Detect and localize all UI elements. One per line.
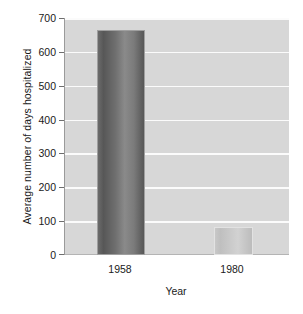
y-axis-tick-label: 600 bbox=[22, 47, 56, 58]
x-axis-tick-labels: 19581980 bbox=[64, 261, 288, 277]
bar-series bbox=[65, 18, 289, 255]
y-axis-tick-label: 200 bbox=[22, 182, 56, 193]
y-axis-tick-label: 0 bbox=[22, 250, 56, 261]
y-axis-tick-labels: 7006005004003002001000 bbox=[22, 18, 56, 255]
bar-1958 bbox=[97, 30, 145, 255]
y-axis-tick-label: 400 bbox=[22, 114, 56, 125]
y-axis-tick-label: 300 bbox=[22, 148, 56, 159]
x-axis-tick-label-1980: 1980 bbox=[220, 261, 243, 277]
x-axis-tick-label-1958: 1958 bbox=[108, 261, 131, 277]
y-axis-tick-label: 100 bbox=[22, 216, 56, 227]
y-axis-tick-label: 500 bbox=[22, 80, 56, 91]
y-axis-tick-label: 700 bbox=[22, 13, 56, 24]
x-axis-title: Year bbox=[64, 285, 288, 297]
bar-1980 bbox=[214, 227, 253, 255]
bar-chart-figure: Average number of days hospitalized 7006… bbox=[0, 0, 303, 314]
plot-area bbox=[64, 18, 289, 255]
